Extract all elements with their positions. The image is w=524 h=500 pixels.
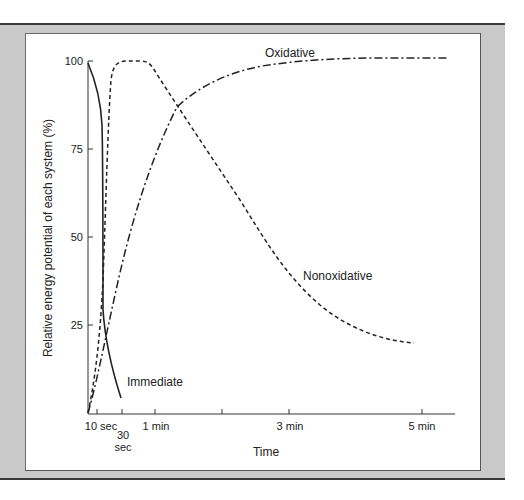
y-tick-label-100: 100 — [65, 55, 83, 67]
label-nonoxidative: Nonoxidative — [303, 269, 373, 283]
x-tick-label-3min: 3 min — [277, 420, 304, 432]
label-immediate: Immediate — [127, 375, 183, 389]
x-tick-label-10sec: 10 sec — [85, 420, 118, 432]
x-axis-title: Time — [253, 445, 280, 459]
x-tick-label-5min: 5 min — [409, 420, 436, 432]
energy-systems-chart: 100 75 50 25 10 sec 30 sec 1 min 3 min 5… — [0, 0, 524, 500]
series-nonoxidative — [88, 61, 414, 413]
axes — [88, 61, 455, 414]
label-oxidative: Oxidative — [265, 46, 315, 60]
y-axis-title: Relative energy potential of each system… — [41, 119, 55, 357]
y-tick-label-50: 50 — [71, 231, 83, 243]
series-oxidative — [88, 58, 448, 413]
x-tick-label-sec: sec — [114, 441, 132, 453]
y-tick-label-75: 75 — [71, 143, 83, 155]
x-tick-label-1min: 1 min — [143, 420, 170, 432]
y-tick-label-25: 25 — [71, 319, 83, 331]
x-tick-label-30: 30 — [117, 429, 129, 441]
